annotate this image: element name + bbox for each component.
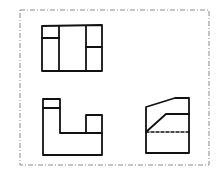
side-view-slope-line	[146, 114, 189, 132]
top-view-outline	[42, 25, 102, 71]
side-view	[146, 98, 189, 153]
drawing-border	[20, 10, 209, 165]
top-view	[42, 25, 102, 71]
drawing-canvas	[0, 0, 222, 180]
front-view	[43, 99, 102, 155]
